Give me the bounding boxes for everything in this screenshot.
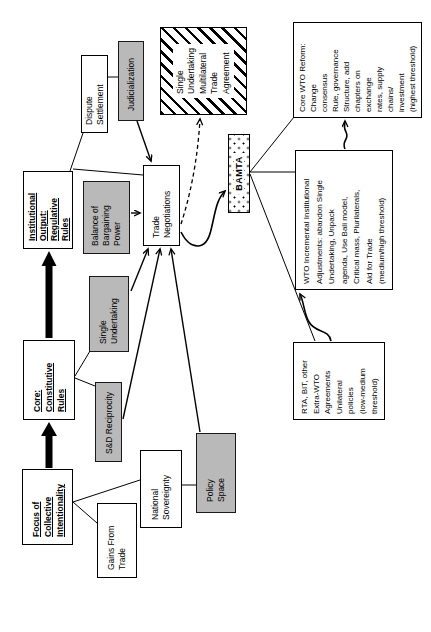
box-text-line: Undertaking bbox=[109, 277, 120, 344]
box-sd-reciprocity: S&D Reciprocity bbox=[95, 382, 122, 462]
box-text-line: Undertaking bbox=[186, 48, 197, 94]
box-text-line: (low-medium bbox=[357, 343, 369, 414]
box-text-line: Unilateral bbox=[334, 343, 346, 414]
hatched-box-label: SingleUndertakingMultilateralTradeAgreem… bbox=[173, 44, 234, 98]
box-text-line: (medium/high threshold) bbox=[376, 151, 389, 284]
box-text-line: National bbox=[150, 451, 161, 520]
bamta-label: BAMTA bbox=[234, 153, 244, 193]
box-policy-space: PolicySpace bbox=[196, 433, 236, 513]
box-text-line: Judicialization bbox=[126, 42, 137, 111]
line-institutional-output-dispute bbox=[70, 133, 83, 171]
box-text-line: Balance of bbox=[90, 182, 101, 246]
box-text-line: Agreements bbox=[322, 343, 334, 414]
box-text-line: RTA, BIT, other bbox=[299, 343, 311, 414]
box-text-line: chains/ bbox=[385, 23, 396, 112]
box-text-line: Sovereignty bbox=[161, 451, 172, 520]
box-text-line: Institutional bbox=[27, 172, 38, 241]
box-text-line: Core WTO Reform: bbox=[297, 23, 308, 112]
box-text-line: Aid for Trade bbox=[364, 151, 377, 284]
box-text-line: Intentionality bbox=[54, 470, 66, 537]
box-single-undertaking-multilateral-trade-agreement: SingleUndertakingMultilateralTradeAgreem… bbox=[160, 27, 247, 115]
box-text-line: Extra-WTO bbox=[311, 343, 323, 414]
box-text-line: Structure, add bbox=[341, 23, 352, 112]
box-gains-from-trade: Gains FromTrade bbox=[97, 503, 137, 578]
box-text-line: Core: bbox=[31, 341, 43, 412]
box-text-line: Dispute bbox=[84, 56, 95, 125]
box-text-line: WTO Incremental Institutional bbox=[301, 151, 314, 284]
box-judicialization: Judicialization bbox=[118, 41, 144, 121]
box-balance-of-bargaining-power: Balance ofBargainingPower bbox=[83, 181, 130, 254]
thick-arrow-core-to-institutional-output bbox=[42, 251, 57, 338]
box-institutional-output-regulative-rules: InstitutionalOutput:RegulativeRules bbox=[23, 171, 73, 249]
box-text-line: Trade bbox=[151, 166, 162, 238]
arrow-policy-space-to-trade bbox=[171, 249, 200, 432]
box-text-line: S&D Reciprocity bbox=[104, 383, 115, 454]
box-rta-bit-extra-wto: RTA, BIT, otherExtra-WTOAgreementsUnilat… bbox=[293, 342, 385, 420]
box-dispute-settlement: DisputeSettlement bbox=[81, 55, 108, 133]
box-text-line: Adjustments: abandon Single bbox=[314, 151, 327, 284]
box-text-line: Negotiations bbox=[162, 166, 173, 238]
box-text-line: Multilateral bbox=[198, 48, 209, 94]
box-text-line: Constitutive bbox=[43, 341, 55, 412]
dashed-arrow-trade-to-sumta bbox=[181, 119, 200, 224]
arrow-single-undertaking-to-trade bbox=[131, 249, 148, 291]
line-focus-gains bbox=[73, 502, 97, 523]
thick-arrow-focus-to-core bbox=[41, 422, 57, 468]
box-text-line: Output: bbox=[38, 172, 49, 241]
box-text-line: Focus of bbox=[30, 470, 42, 537]
box-text-line: rates, supply bbox=[374, 23, 385, 112]
box-text-line: Policy bbox=[205, 434, 216, 502]
box-wto-incremental-adjustments: WTO Incremental InstitutionalAdjustments… bbox=[295, 150, 393, 290]
box-text-line: Power bbox=[112, 182, 123, 246]
line-core-single-undertaking bbox=[75, 351, 90, 376]
box-text-line: Agreement bbox=[221, 48, 232, 94]
box-text-line: investment bbox=[396, 23, 407, 112]
box-text-line: Rule, governance bbox=[330, 23, 341, 112]
box-national-sovereignty: NationalSovereignty bbox=[140, 450, 182, 528]
box-text-line: Regulative bbox=[49, 172, 60, 241]
box-text-line: threshold) bbox=[369, 343, 381, 414]
box-bamta: BAMTA bbox=[228, 134, 250, 213]
diagram-rotated-canvas: Focus ofCollectiveIntentionality Core:Co… bbox=[0, 0, 431, 632]
line-core-sd-reciprocity bbox=[75, 378, 95, 386]
box-trade-negotiations: TradeNegotiations bbox=[143, 165, 180, 246]
box-text-line: Rules bbox=[55, 341, 67, 412]
box-text-line: Single bbox=[175, 48, 186, 94]
line-focus-national-sovereignty bbox=[73, 480, 140, 502]
box-text-line: Bargaining bbox=[101, 182, 112, 246]
arrow-rta-to-wto-incremental bbox=[300, 294, 331, 341]
box-focus-of-collective-intentionality: Focus ofCollectiveIntentionality bbox=[22, 469, 73, 545]
box-text-line: agenda, Use Bali model, bbox=[339, 151, 352, 284]
box-text-line: Single bbox=[98, 277, 109, 344]
box-text-line: Collective bbox=[42, 470, 54, 537]
box-text-line: Gains From bbox=[106, 504, 117, 570]
box-text-line: Change bbox=[308, 23, 319, 112]
box-text-line: chapters on bbox=[352, 23, 363, 112]
box-text-line: policies bbox=[345, 343, 357, 414]
box-text-line: (highest threshold) bbox=[407, 23, 418, 112]
box-text-line: Space bbox=[216, 434, 227, 502]
box-text-line: consensus bbox=[319, 23, 330, 112]
box-text-line: Settlement bbox=[95, 56, 106, 125]
box-core-constitutive-rules: Core:ConstitutiveRules bbox=[23, 340, 75, 420]
box-text-line: Critical mass, Plurilaterals, bbox=[351, 151, 364, 284]
line-institutional-output-trade bbox=[73, 169, 143, 175]
figure-page: { "figure": { "description": "Flow diagr… bbox=[0, 0, 431, 632]
box-text-line: Rules bbox=[60, 172, 71, 241]
arrow-judicialization-to-trade bbox=[137, 121, 151, 161]
arrow-trade-to-bamta bbox=[181, 191, 225, 246]
box-core-wto-reform: Core WTO Reform:ChangeconsensusRule, gov… bbox=[293, 22, 422, 118]
box-text-line: Undertaking, Unpack bbox=[326, 151, 339, 284]
box-text-line: exchange bbox=[363, 23, 374, 112]
line-bamta-core-wto-reform bbox=[250, 117, 294, 172]
arrow-wto-incremental-to-reform bbox=[344, 121, 347, 149]
box-text-line: Trade bbox=[117, 504, 128, 570]
box-text-line: Trade bbox=[209, 48, 220, 94]
box-single-undertaking: SingleUndertaking bbox=[89, 276, 129, 352]
